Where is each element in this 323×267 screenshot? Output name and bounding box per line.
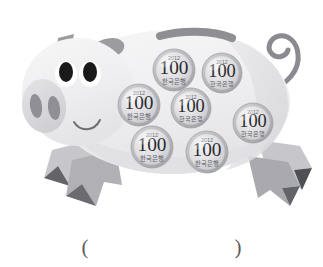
answer-row: ( ) — [0, 228, 323, 267]
coin-currency-text: 한국은행 — [179, 115, 203, 123]
coin[interactable]: 2012100한국은행 — [118, 84, 160, 126]
piggy-bank-illustration: 2012100한국은행2012100한국은행2012100한국은행2012100… — [0, 0, 323, 232]
close-paren: ) — [235, 237, 242, 258]
coin[interactable]: 2012100한국은행 — [131, 126, 173, 168]
coin-currency-text: 한국은행 — [195, 159, 219, 168]
coin[interactable]: 2012100한국은행 — [171, 88, 211, 128]
pig-eye-left — [55, 61, 77, 87]
coin[interactable]: 2012100한국은행 — [233, 103, 273, 143]
coin-currency-text: 한국은행 — [140, 154, 164, 163]
pig-eye-right — [79, 61, 101, 87]
coin-currency-text: 한국은행 — [162, 77, 186, 86]
coin-currency-text: 한국은행 — [127, 112, 151, 121]
coin-currency-text: 한국은행 — [241, 130, 265, 138]
coin-currency-text: 한국은행 — [210, 80, 234, 88]
coin[interactable]: 2012100한국은행 — [202, 53, 242, 93]
coin[interactable]: 2012100한국은행 — [153, 49, 195, 91]
answer-blank[interactable]: ( ) — [82, 237, 242, 258]
worksheet-figure: 2012100한국은행2012100한국은행2012100한국은행2012100… — [0, 0, 323, 267]
coin[interactable]: 2012100한국은행 — [186, 131, 228, 173]
open-paren: ( — [82, 237, 89, 258]
pig-head — [18, 38, 134, 146]
